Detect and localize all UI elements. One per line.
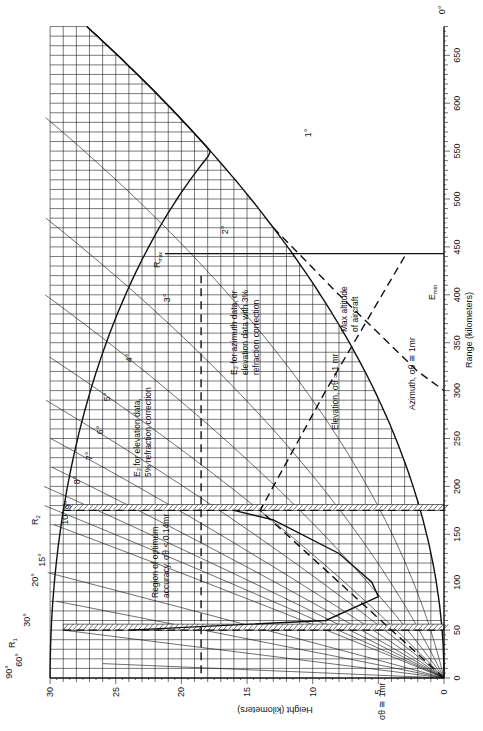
height-tick-label: 20 [176,687,186,697]
angle-label: 3° [162,293,172,302]
angle-label: 20° [30,573,40,587]
range-tick-label: 100 [452,575,462,590]
range-tick-label: 0 [452,675,462,680]
range-tick-label: 300 [452,383,462,398]
elevation-ray-30 [63,630,444,678]
angle-label: 10° [60,511,70,525]
range-axis-title: Range (kilometers) [464,292,474,368]
angle-label: 0° [437,5,447,14]
angle-label: 9° [63,500,73,509]
height-tick-label: 25 [111,687,121,697]
elevation-ray-5 [46,400,444,678]
angle-label: 6° [95,425,105,434]
annotations: Range (kilometers) Height (kilometers) R… [7,252,474,720]
range-tick-label: 200 [452,479,462,494]
angle-label: 2° [220,225,230,234]
angle-label: 5° [102,392,112,401]
angle-label: 1° [303,128,313,137]
range-tick-label: 600 [452,96,462,111]
e2-azimuth-label: E₂ for azimuth data, orelevation data wi… [229,290,261,375]
r1-label: R1 [7,638,18,649]
max-altitude-label: Max altitudeof aircraft [339,286,360,332]
angle-label: 4° [124,353,134,362]
range-tick-label: 450 [452,239,462,254]
range-tick-label: 350 [452,335,462,350]
r2-label: R2 [30,515,41,526]
height-tick-label: 0 [439,689,449,694]
elevation-label: Elevation, σθ = 1 mr [330,353,340,430]
angle-label: 90° [4,665,14,679]
range-tick-label: 50 [452,625,462,635]
angle-label: 7° [84,451,94,460]
range-tick-label: 150 [452,527,462,542]
angle-label: 8° [72,475,82,484]
emin-label: Emin [427,285,438,300]
height-tick-label: 30 [45,687,55,697]
e2-elevation-label: E₂ for elevation data,5% refraction corr… [132,387,153,477]
range-tick-label: 250 [452,431,462,446]
height-axis-title: Height (kilometers) [237,705,313,715]
angle-label: 60° [14,653,24,667]
range-height-chart: 0501001502002503003504004505005506006500… [0,0,483,731]
height-tick-label: 10 [308,687,318,697]
chart-series [63,228,448,678]
rmax-label: Rmax [152,252,163,268]
range-tick-label: 500 [452,191,462,206]
height-tick-label: 15 [242,687,252,697]
azimuth-label: Azimuth, σθ ≅ 1mr [407,337,417,410]
range-tick-label: 650 [452,48,462,63]
region-label: Region of optimumaccuracy, σθ < 0.14mr [150,514,171,598]
range-tick-label: 400 [452,287,462,302]
angle-label: 30° [22,613,32,627]
range-tick-label: 550 [452,144,462,159]
angle-label: 15° [37,553,47,567]
sigma-label: σθ ≅ 1mr [377,682,387,720]
